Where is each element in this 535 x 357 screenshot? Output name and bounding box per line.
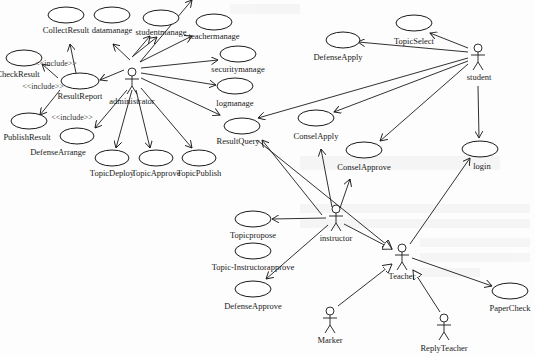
use-case-studentmanage: studentmanage bbox=[136, 10, 187, 37]
svg-text:DefenseArrange: DefenseArrange bbox=[30, 147, 86, 157]
svg-text:TopicPublish: TopicPublish bbox=[177, 168, 222, 178]
svg-text:securitymanage: securitymanage bbox=[211, 64, 265, 74]
use-case-topicdeploy: TopicDeploy bbox=[90, 150, 135, 178]
svg-text:ResultReport: ResultReport bbox=[58, 91, 103, 101]
svg-text:student: student bbox=[467, 72, 492, 82]
use-case-defenseapply: DefenseApply bbox=[313, 32, 363, 62]
actor-replyteacher: ReplyTeacher bbox=[420, 314, 467, 353]
svg-text:PaperCheck: PaperCheck bbox=[489, 303, 531, 313]
svg-text:<<include>>: <<include>> bbox=[22, 82, 64, 91]
svg-text:CheckResult: CheckResult bbox=[0, 69, 40, 79]
use-case-topicselect: TopicSelect bbox=[394, 15, 435, 46]
use-case-teachermanage: teachermanage bbox=[189, 14, 240, 41]
use-case-topic-instructorapprove: Topic-Instructorapprove bbox=[212, 243, 295, 272]
svg-text:login: login bbox=[473, 161, 491, 171]
svg-text:CollectResult: CollectResult bbox=[43, 25, 90, 35]
use-case-defenseapprove: DefenseApprove bbox=[224, 281, 282, 311]
use-case-securitymanage: securitymanage bbox=[211, 46, 265, 74]
actor-teacher: Teacher bbox=[389, 244, 416, 281]
svg-text:ConselApprove: ConselApprove bbox=[337, 162, 391, 172]
svg-text:administrator: administrator bbox=[109, 96, 154, 106]
svg-text:Topicpropose: Topicpropose bbox=[230, 230, 276, 240]
svg-text:<<include>>: <<include>> bbox=[51, 113, 93, 122]
use-case-topicpublish: TopicPublish bbox=[177, 150, 222, 178]
use-case-topicapprove: TopicApprove bbox=[132, 150, 181, 178]
use-case-logmanage: logmanage bbox=[216, 78, 254, 108]
use-case-datamanage: datamanage bbox=[92, 7, 133, 35]
actor-marker: Marker bbox=[317, 307, 342, 345]
use-case-collectresult: CollectResult bbox=[43, 7, 90, 35]
svg-text:TopicSelect: TopicSelect bbox=[394, 36, 435, 46]
use-case-resultquery: ResultQuery bbox=[217, 118, 261, 146]
use-case-resultreport: ResultReport bbox=[58, 73, 103, 101]
use-case-topicpropose: Topicpropose bbox=[230, 211, 276, 240]
svg-text:datamanage: datamanage bbox=[92, 25, 133, 35]
svg-text:teachermanage: teachermanage bbox=[189, 31, 240, 41]
svg-text:DefenseApply: DefenseApply bbox=[313, 52, 363, 62]
use-case-diagram: CollectResult datamanage studentmanage t… bbox=[0, 0, 535, 357]
actor-student: student bbox=[467, 44, 492, 82]
svg-text:TopicDeploy: TopicDeploy bbox=[90, 168, 135, 178]
svg-text:PublishResult: PublishResult bbox=[3, 132, 51, 142]
svg-text:TopicApprove: TopicApprove bbox=[132, 168, 181, 178]
svg-text:studentmanage: studentmanage bbox=[136, 27, 187, 37]
svg-text:Topic-Instructorapprove: Topic-Instructorapprove bbox=[212, 262, 295, 272]
use-case-conselapply: ConselApply bbox=[294, 110, 340, 141]
svg-text:DefenseApprove: DefenseApprove bbox=[224, 301, 282, 311]
svg-text:Teacher: Teacher bbox=[389, 271, 416, 281]
svg-text:<<include>>: <<include>> bbox=[35, 59, 77, 68]
svg-text:ConselApply: ConselApply bbox=[294, 131, 340, 141]
svg-text:Marker: Marker bbox=[317, 335, 342, 345]
svg-text:instructor: instructor bbox=[320, 233, 353, 243]
svg-text:ReplyTeacher: ReplyTeacher bbox=[420, 343, 467, 353]
use-case-papercheck: PaperCheck bbox=[489, 283, 531, 313]
svg-text:ResultQuery: ResultQuery bbox=[217, 136, 261, 146]
svg-text:logmanage: logmanage bbox=[216, 98, 254, 108]
use-case-publishresult: PublishResult bbox=[3, 113, 51, 142]
